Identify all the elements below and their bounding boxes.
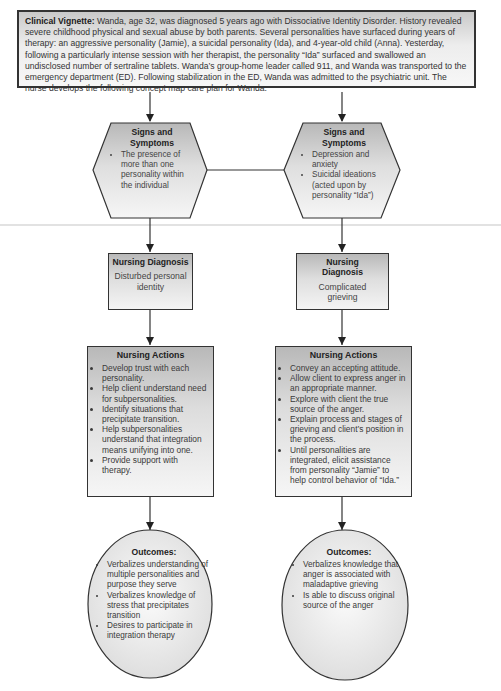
- left-outcomes-title: Outcomes:: [98, 547, 210, 558]
- connector-lines: [0, 0, 501, 691]
- right-outcomes-title: Outcomes:: [294, 547, 404, 558]
- left-nursing-actions: Nursing Actions Develop trust with each …: [87, 346, 214, 497]
- right-action-item: Explain process and stages of grieving a…: [290, 414, 406, 445]
- left-outcome-item: Desires to participate in integration th…: [107, 621, 210, 641]
- right-signs-item: Suicidal ideations (acted upon by person…: [312, 170, 385, 201]
- left-signs-list: The presence of more than one personalit…: [112, 150, 192, 191]
- clinical-vignette: Clinical Vignette: Wanda, age 32, was di…: [17, 10, 476, 88]
- left-diagnosis-title: Nursing Diagnosis: [109, 257, 192, 267]
- right-actions-list: Convey an accepting attitude. Allow clie…: [281, 363, 406, 485]
- left-actions-title: Nursing Actions: [93, 350, 208, 361]
- right-action-item: Allow client to express anger in an appr…: [290, 373, 406, 393]
- vignette-label: Clinical Vignette:: [25, 16, 95, 26]
- right-nursing-actions: Nursing Actions Convey an accepting atti…: [275, 346, 412, 497]
- right-signs-item: Depression and anxiety: [312, 150, 385, 170]
- right-signs-content: Signs and Symptoms Depression and anxiet…: [303, 127, 385, 201]
- right-outcomes-list: Verbalizes knowledge that anger is assoc…: [294, 560, 404, 611]
- right-nursing-diagnosis: Nursing Diagnosis Complicated grieving: [296, 253, 389, 310]
- left-signs-title: Signs and Symptoms: [112, 127, 192, 148]
- left-outcome-item: Verbalizes understanding of multiple per…: [107, 560, 210, 591]
- right-diagnosis-value: Complicated grieving: [297, 282, 388, 303]
- right-diagnosis-title: Nursing Diagnosis: [297, 257, 388, 278]
- left-outcome-item: Verbalizes knowledge of stress that prec…: [107, 591, 210, 622]
- right-outcome-item: Verbalizes knowledge that anger is assoc…: [303, 560, 404, 591]
- right-action-item: Until personalities are integrated, elic…: [290, 445, 406, 486]
- right-outcome-item: Is able to discuss original source of th…: [303, 591, 404, 611]
- vignette-text: Wanda, age 32, was diagnosed 5 years ago…: [25, 16, 466, 93]
- left-signs-content: Signs and Symptoms The presence of more …: [112, 127, 192, 191]
- left-action-item: Provide support with therapy.: [102, 455, 208, 475]
- left-outcomes-content: Outcomes: Verbalizes understanding of mu…: [98, 547, 210, 642]
- left-signs-item: The presence of more than one personalit…: [121, 150, 192, 191]
- right-actions-title: Nursing Actions: [281, 350, 406, 361]
- right-signs-title: Signs and Symptoms: [303, 127, 385, 148]
- right-action-item: Explore with client the true source of t…: [290, 394, 406, 414]
- left-action-item: Help client understand need for subperso…: [102, 383, 208, 403]
- right-action-item: Convey an accepting attitude.: [290, 363, 406, 373]
- left-outcomes-list: Verbalizes understanding of multiple per…: [98, 560, 210, 642]
- left-diagnosis-value: Disturbed personal identity: [109, 271, 192, 292]
- left-action-item: Develop trust with each personality.: [102, 363, 208, 383]
- left-actions-list: Develop trust with each personality. Hel…: [93, 363, 208, 475]
- left-action-item: Help subpersonalities understand that in…: [102, 424, 208, 455]
- left-nursing-diagnosis: Nursing Diagnosis Disturbed personal ide…: [108, 253, 193, 310]
- left-action-item: Identify situations that precipitate tra…: [102, 404, 208, 424]
- right-signs-list: Depression and anxiety Suicidal ideation…: [303, 150, 385, 201]
- right-outcomes-content: Outcomes: Verbalizes knowledge that ange…: [294, 547, 404, 611]
